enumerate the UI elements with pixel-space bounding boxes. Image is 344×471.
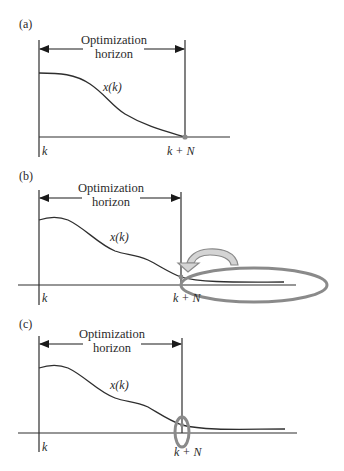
horizon-label-line1: Optimization (79, 327, 146, 341)
horizon-label-line2: horizon (93, 341, 132, 355)
terminal-point (179, 275, 184, 280)
horizon-label-line1: Optimization (81, 33, 148, 47)
panel-label: (a) (19, 17, 32, 31)
tick-k-plus-n: k + N (174, 445, 202, 459)
curve-label: x(k) (109, 378, 129, 392)
state-trajectory (39, 365, 285, 429)
terminal-point (182, 134, 187, 139)
horizon-label-line1: Optimization (78, 181, 145, 195)
tick-k-plus-n: k + N (167, 144, 195, 158)
curve-label: x(k) (102, 80, 122, 94)
horizon-label-line2: horizon (92, 195, 131, 209)
panel-c: (c) Optimization horizon x(k) k k + N (18, 317, 297, 459)
tick-k: k (42, 440, 48, 454)
panel-b: (b) Optimization horizon x(k) k k + N (18, 169, 327, 305)
curve-label: x(k) (109, 230, 129, 244)
horizon-label-line2: horizon (95, 47, 134, 61)
tick-k-plus-n: k + N (173, 291, 201, 305)
tick-k: k (42, 291, 48, 305)
mpc-horizon-figure: (a) Optimization horizon x(k) k k + N (b… (0, 0, 344, 471)
panel-a: (a) Optimization horizon x(k) k k + N (19, 17, 230, 158)
panel-label: (b) (19, 169, 33, 183)
panel-label: (c) (19, 317, 32, 331)
tick-k: k (42, 144, 48, 158)
state-trajectory (39, 217, 284, 282)
terminal-point (180, 423, 184, 427)
